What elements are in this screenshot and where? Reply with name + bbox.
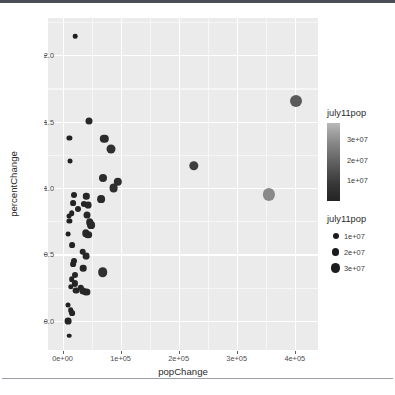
data-point	[87, 221, 95, 229]
y-axis-tick-label: 1.0	[44, 183, 54, 192]
data-point	[80, 265, 87, 272]
y-axis-title: percentChange	[8, 151, 19, 217]
legend-size-dot	[333, 233, 339, 239]
colourbar-tick-label: 2e+07	[347, 155, 368, 164]
data-point	[98, 267, 108, 277]
colourbar-tick	[340, 180, 343, 181]
x-axis-tick-label: 0e+00	[52, 354, 73, 363]
chart-root: 0e+001e+052e+053e+054e+05 0.00.51.01.52.…	[0, 0, 395, 395]
y-axis-tick-label: 0.0	[44, 316, 54, 325]
legend-size-rows: 1e+072e+073e+07	[327, 228, 366, 276]
data-point	[107, 145, 116, 154]
data-point	[72, 287, 79, 294]
gridline-x-minor	[208, 18, 209, 350]
y-axis-tick-label: 2.0	[44, 51, 54, 60]
legend-size-dot-cell	[327, 248, 344, 256]
data-point	[73, 34, 78, 39]
data-point	[67, 333, 72, 338]
colourbar-tick-label: 1e+07	[347, 176, 368, 185]
data-point	[70, 261, 76, 267]
data-point	[83, 193, 89, 199]
legend-size-dot-cell	[327, 233, 344, 239]
x-axis-tick-label: 4e+05	[284, 354, 305, 363]
colourbar-wrap: 3e+072e+071e+07	[327, 123, 389, 201]
bottom-border-rule	[2, 378, 393, 379]
gridline-y-major	[48, 55, 318, 56]
data-point	[75, 206, 81, 212]
data-point	[97, 195, 105, 203]
gridline-y-minor	[48, 22, 318, 23]
gridline-x-major	[179, 18, 180, 350]
data-point	[69, 310, 75, 316]
legend-size-dot	[332, 248, 340, 256]
x-axis-title: popChange	[158, 366, 208, 377]
legend-size-label: 2e+07	[344, 248, 365, 257]
data-point	[290, 95, 302, 107]
gridline-x-major	[295, 18, 296, 350]
data-point	[83, 288, 90, 295]
data-point	[67, 219, 72, 224]
gridline-x-major	[121, 18, 122, 350]
data-point	[70, 200, 76, 206]
data-point	[66, 232, 71, 237]
y-axis-tick-label: 0.5	[44, 250, 54, 259]
data-point	[64, 317, 71, 324]
gridline-y-minor	[48, 155, 318, 156]
legend-size-july11pop: july11pop 1e+072e+073e+07	[327, 214, 366, 276]
plot-panel	[48, 18, 318, 350]
y-axis-tick-label: 1.5	[44, 117, 54, 126]
legend-colour-july11pop: july11pop 3e+072e+071e+07	[327, 108, 389, 201]
legend-size-row: 2e+07	[327, 244, 366, 260]
x-axis-tick-label: 2e+05	[168, 354, 189, 363]
legend-size-title: july11pop	[327, 214, 366, 224]
gridline-x-major	[63, 18, 64, 350]
data-point	[85, 118, 92, 125]
gridline-x-minor	[92, 18, 93, 350]
data-point	[84, 211, 91, 218]
data-point	[189, 161, 198, 170]
gridline-x-minor	[150, 18, 151, 350]
data-point	[82, 253, 89, 260]
data-point	[85, 202, 92, 209]
data-point	[67, 135, 72, 140]
gridline-y-minor	[48, 88, 318, 89]
colourbar-tick-label: 3e+07	[347, 135, 368, 144]
legend-size-label: 3e+07	[344, 264, 365, 273]
x-axis-tick-label: 1e+05	[110, 354, 131, 363]
colourbar-tick	[340, 139, 343, 140]
gridline-x-minor	[266, 18, 267, 350]
colourbar-gradient	[327, 123, 340, 201]
gridline-y-major	[48, 321, 318, 322]
legend-colour-title: july11pop	[327, 108, 389, 118]
data-point	[99, 174, 107, 182]
top-border-rule	[0, 0, 395, 3]
data-point	[109, 183, 118, 192]
x-axis-tick-label: 3e+05	[226, 354, 247, 363]
legend-size-label: 1e+07	[344, 232, 365, 241]
data-point	[71, 192, 77, 198]
data-point	[69, 242, 75, 248]
data-point	[100, 134, 108, 142]
legend-size-row: 1e+07	[327, 228, 366, 244]
legend-size-row: 3e+07	[327, 260, 366, 276]
colourbar-tick	[340, 160, 343, 161]
data-point	[84, 231, 92, 239]
gridline-y-major	[48, 188, 318, 189]
data-point	[68, 159, 73, 164]
gridline-x-major	[237, 18, 238, 350]
legend-size-dot-cell	[327, 263, 344, 272]
data-point	[263, 188, 275, 200]
legend-size-dot	[331, 263, 340, 272]
